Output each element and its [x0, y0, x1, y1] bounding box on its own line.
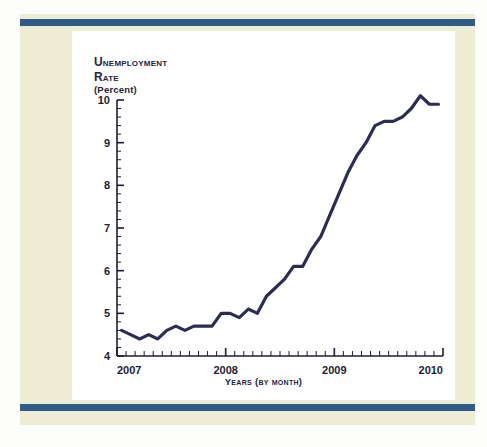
x-axis-ticks: [117, 348, 443, 356]
unemployment-data-line: [122, 96, 439, 339]
line-chart: 45678910 2007200820092010: [72, 31, 455, 400]
x-tick-label: 2007: [117, 364, 141, 376]
x-tick-label: 2009: [322, 364, 346, 376]
y-axis-ticks: [117, 100, 124, 356]
x-axis-caption: Years (by month): [72, 376, 455, 387]
y-tick-label: 8: [104, 179, 110, 191]
y-tick-label: 6: [104, 265, 110, 277]
x-tick-label: 2008: [213, 364, 237, 376]
page-root: Unemployment Rate (Percent) 45678910 200…: [0, 0, 487, 447]
y-tick-label: 9: [104, 137, 110, 149]
y-axis-tick-labels: 45678910: [98, 94, 111, 362]
y-tick-label: 5: [104, 307, 110, 319]
y-tick-label: 10: [98, 94, 110, 106]
x-tick-label: 2010: [419, 364, 443, 376]
top-rule-bar: [20, 19, 475, 26]
x-axis-tick-labels: 2007200820092010: [117, 364, 443, 376]
y-tick-label: 4: [104, 350, 111, 362]
y-tick-label: 7: [104, 222, 110, 234]
bottom-rule-bar: [20, 404, 475, 411]
chart-panel: Unemployment Rate (Percent) 45678910 200…: [72, 31, 455, 400]
